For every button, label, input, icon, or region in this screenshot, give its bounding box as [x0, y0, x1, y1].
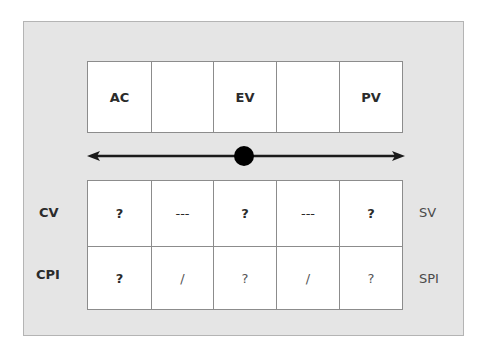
cell-sv-pv: ? — [340, 181, 402, 247]
cell-ac: AC — [88, 62, 152, 132]
cell-cv-ac: ? — [88, 181, 152, 247]
label-sv: SV — [419, 205, 436, 220]
cell-empty-1 — [152, 62, 214, 132]
top-value-row: AC EV PV — [87, 61, 403, 133]
center-dot-marker — [234, 146, 254, 166]
cell-divide-1: / — [152, 247, 214, 309]
cell-empty-2 — [277, 62, 340, 132]
cell-divide-2: / — [277, 247, 340, 309]
cell-spi-pv: ? — [340, 247, 402, 309]
label-cv: CV — [39, 205, 59, 220]
label-spi: SPI — [419, 271, 439, 286]
cell-pv: PV — [340, 62, 402, 132]
cell-minus-2: --- — [277, 181, 340, 247]
label-cpi: CPI — [36, 267, 60, 282]
double-arrow-scale — [86, 144, 406, 168]
cell-index-ev: ? — [214, 247, 277, 309]
cell-cpi-ac: ? — [88, 247, 152, 309]
cell-minus-1: --- — [152, 181, 214, 247]
variance-index-table: ? --- ? --- ? ? / ? / ? — [87, 180, 403, 310]
cell-cv-ev: ? — [214, 181, 277, 247]
cell-ev: EV — [214, 62, 277, 132]
